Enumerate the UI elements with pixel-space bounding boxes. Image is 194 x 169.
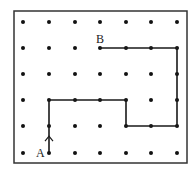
- grid-dot: [73, 72, 77, 76]
- grid-dot: [73, 46, 77, 50]
- grid-dot: [73, 20, 77, 24]
- grid-dot: [21, 20, 25, 24]
- grid-dot: [21, 72, 25, 76]
- grid-dot: [149, 151, 153, 155]
- grid-dot: [124, 151, 128, 155]
- grid-dot: [21, 98, 25, 102]
- grid-dot: [175, 151, 179, 155]
- grid-dot: [175, 20, 179, 24]
- grid-dot: [98, 151, 102, 155]
- grid-dot: [98, 20, 102, 24]
- grid-dot: [73, 151, 77, 155]
- grid-dot: [47, 72, 51, 76]
- grid-dot: [21, 46, 25, 50]
- grid-dot: [98, 72, 102, 76]
- grid-dot: [149, 98, 153, 102]
- label-start-a: A: [36, 146, 45, 160]
- grid-dot: [21, 151, 25, 155]
- label-end-b: B: [96, 32, 104, 46]
- dot-grid-diagram: A B: [0, 0, 194, 169]
- grid-dot: [21, 124, 25, 128]
- grid-dot: [73, 124, 77, 128]
- grid-dot: [124, 20, 128, 24]
- grid-dot: [149, 20, 153, 24]
- grid-dot: [47, 20, 51, 24]
- grid-dot: [124, 72, 128, 76]
- grid-dot: [47, 46, 51, 50]
- grid-dot: [98, 124, 102, 128]
- grid-dot: [149, 72, 153, 76]
- path-a-to-b: [49, 48, 177, 153]
